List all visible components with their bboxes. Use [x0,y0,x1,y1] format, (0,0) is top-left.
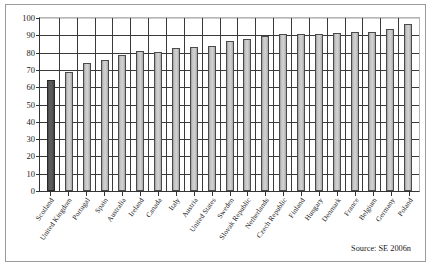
bar-poland[interactable] [404,24,412,191]
chart-figure: 1009080706050403020100 ScotlandUnited Ki… [5,4,426,262]
x-tick-label-ireland: Ireland [128,197,146,218]
y-tick-label-60: 60 [27,83,36,92]
y-tick-label-30: 30 [27,135,36,144]
bar-italy[interactable] [172,48,180,191]
y-tick-label-10: 10 [27,169,36,178]
x-label-cell: Finland [292,196,310,252]
bar-cell [346,18,364,191]
bar-cell [131,18,149,191]
x-tick-label-spain: Spain [94,197,110,215]
bar-cell [328,18,346,191]
bar-cell [42,18,60,191]
y-tick-label-90: 90 [27,31,36,40]
bar-cell [310,18,328,191]
x-label-cell: Italy [167,196,185,252]
y-tick-mark-70 [36,70,40,71]
bar-ireland[interactable] [136,51,144,191]
bar-australia[interactable] [118,55,126,191]
y-tick-label-20: 20 [27,152,36,161]
y-tick-mark-50 [36,105,40,106]
y-tick-mark-30 [36,139,40,140]
bar-united-states[interactable] [208,46,216,191]
x-tick-label-canada: Canada [145,197,164,219]
bar-france[interactable] [351,32,359,191]
y-tick-label-70: 70 [27,66,36,75]
bar-cell [399,18,417,191]
bar-cell [238,18,256,191]
x-label-cell: United States [203,196,221,252]
bars-group [40,18,419,191]
bar-spain[interactable] [101,60,109,191]
bar-czech-republic[interactable] [279,34,287,191]
bar-cell [256,18,274,191]
y-tick-label-0: 0 [31,187,35,196]
bar-hungary[interactable] [315,34,323,191]
bar-denmark[interactable] [333,33,341,191]
bar-cell [363,18,381,191]
y-tick-mark-20 [36,156,40,157]
bar-sweden[interactable] [226,41,234,192]
x-tick-label-poland: Poland [397,197,415,218]
x-label-cell: Spain [95,196,113,252]
bar-united-kingdom[interactable] [65,72,73,191]
bar-cell [60,18,78,191]
bar-portugal[interactable] [83,63,91,191]
bar-austria[interactable] [190,47,198,191]
bar-cell [274,18,292,191]
bar-cell [149,18,167,191]
y-tick-label-80: 80 [27,48,36,57]
x-label-cell: Denmark [328,196,346,252]
bar-belgium[interactable] [368,32,376,191]
bar-slovak-republic[interactable] [243,39,251,191]
x-label-cell: Ireland [131,196,149,252]
y-tick-label-50: 50 [27,100,36,109]
bar-netherlands[interactable] [261,36,269,191]
bar-cell [381,18,399,191]
y-tick-mark-40 [36,122,40,123]
x-label-cell: Portugal [77,196,95,252]
x-label-cell: United Kingdom [59,196,77,252]
y-tick-label-100: 100 [22,14,35,23]
x-tick-label-italy: Italy [168,197,182,212]
bar-cell [203,18,221,191]
bar-cell [113,18,131,191]
x-label-cell: Czech Republic [274,196,292,252]
bar-cell [292,18,310,191]
y-tick-mark-100 [36,18,40,19]
y-tick-mark-10 [36,174,40,175]
bar-cell [78,18,96,191]
source-note: Source: SE 2006n [351,244,411,253]
bar-finland[interactable] [297,34,305,191]
y-tick-label-40: 40 [27,118,36,127]
x-label-cell: Australia [113,196,131,252]
bar-scotland[interactable] [47,80,55,191]
bar-cell [96,18,114,191]
y-tick-mark-80 [36,53,40,54]
bar-germany[interactable] [386,29,394,191]
bar-cell [185,18,203,191]
y-tick-mark-60 [36,87,40,88]
x-label-cell: Canada [149,196,167,252]
bar-cell [167,18,185,191]
x-label-cell: Hungary [310,196,328,252]
y-tick-mark-90 [36,35,40,36]
bar-canada[interactable] [154,52,162,191]
plot-area: 1009080706050403020100 [39,17,420,192]
bar-cell [221,18,239,191]
